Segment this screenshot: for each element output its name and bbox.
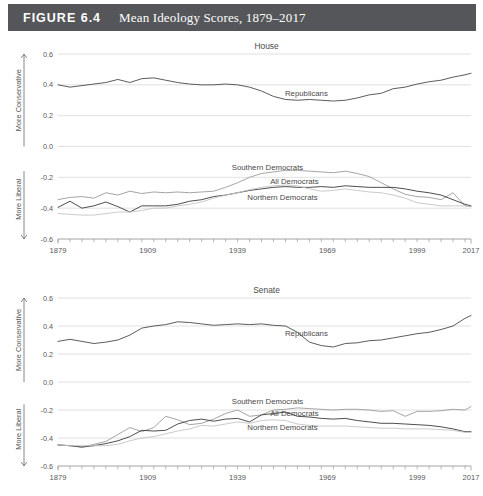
- y-tick-label: -0.4: [41, 434, 53, 443]
- chart-svg-senate: 0.60.40.20.0-0.2-0.4-0.61879190919391969…: [0, 280, 483, 496]
- x-tick-label: 2017: [463, 473, 480, 482]
- axis-label-more-liberal: More Liberal: [14, 408, 23, 449]
- series-line-republicans: [58, 73, 471, 101]
- series-label-all-democrats: All Democrats: [270, 177, 319, 186]
- x-tick-label: 1969: [319, 473, 336, 482]
- figure-header-bar: FIGURE 6.4 Mean Ideology Scores, 1879–20…: [8, 4, 476, 31]
- y-tick-label: 0.2: [43, 350, 53, 359]
- figure-title: Mean Ideology Scores, 1879–2017: [119, 10, 306, 26]
- chart-title: Senate: [253, 285, 280, 295]
- chart-panel-house: 0.60.40.20.0-0.2-0.4-0.61879190919391969…: [0, 36, 483, 268]
- x-tick-label: 2017: [463, 246, 480, 255]
- x-tick-label: 1939: [229, 473, 246, 482]
- x-tick-label: 1909: [139, 473, 156, 482]
- y-tick-label: -0.2: [41, 173, 53, 182]
- y-tick-label: -0.6: [41, 235, 53, 244]
- axis-label-more-conservative: More Conservative: [14, 69, 23, 131]
- chart-panel-senate: 0.60.40.20.0-0.2-0.4-0.61879190919391969…: [0, 280, 483, 496]
- series-label-northern-democrats: Northern Democrats: [247, 423, 317, 432]
- y-tick-label: -0.2: [41, 406, 53, 415]
- y-tick-label: 0.0: [43, 378, 53, 387]
- x-tick-label: 1879: [50, 246, 67, 255]
- series-label-republicans: Republicans: [285, 89, 328, 98]
- y-tick-label: 0.6: [43, 50, 53, 59]
- series-label-all-democrats: All Democrats: [270, 409, 319, 418]
- x-tick-label: 1879: [50, 473, 67, 482]
- series-label-republicans: Republicans: [285, 329, 328, 338]
- axis-label-more-conservative: More Conservative: [14, 309, 23, 371]
- chart-title: House: [254, 41, 279, 51]
- series-label-northern-democrats: Northern Democrats: [247, 193, 317, 202]
- x-tick-label: 1969: [319, 246, 336, 255]
- y-tick-label: -0.4: [41, 204, 53, 213]
- figure-number: FIGURE 6.4: [23, 11, 101, 25]
- y-tick-label: 0.4: [43, 80, 53, 89]
- x-tick-label: 1909: [139, 246, 156, 255]
- x-tick-label: 1939: [229, 246, 246, 255]
- x-tick-label: 1999: [409, 246, 426, 255]
- y-tick-label: -0.6: [41, 462, 53, 471]
- series-label-southern-democrats: Southern Democrats: [232, 397, 304, 406]
- series-label-southern-democrats: Southern Democrats: [232, 163, 304, 172]
- series-line-republicans: [58, 316, 471, 348]
- axis-label-more-liberal: More Liberal: [14, 178, 23, 219]
- y-tick-label: 0.2: [43, 111, 53, 120]
- y-tick-label: 0.0: [43, 142, 53, 151]
- y-tick-label: 0.4: [43, 322, 53, 331]
- chart-svg-house: 0.60.40.20.0-0.2-0.4-0.61879190919391969…: [0, 36, 483, 268]
- x-tick-label: 1999: [409, 473, 426, 482]
- y-tick-label: 0.6: [43, 294, 53, 303]
